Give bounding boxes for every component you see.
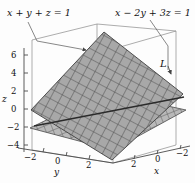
tick-y-0: −2 (24, 152, 37, 162)
tick-z-2: 2 (11, 86, 16, 96)
axis-label-z: z (2, 94, 7, 104)
equation-plane-2: x − 2y + 3z = 1 (115, 7, 191, 18)
axis-label-x: x (154, 166, 159, 176)
equation-plane-1: x + y + z = 1 (7, 7, 71, 18)
axis-label-y: y (54, 167, 59, 177)
tick-z-3: 0 (11, 104, 16, 114)
tick-x-1: 0 (155, 154, 160, 164)
figure-3d-planes: their line of intersection is (0, 0, 195, 183)
tick-z-0: 6 (11, 50, 16, 60)
leader-line-L (168, 66, 171, 74)
axis-ticks-z (24, 55, 28, 145)
tick-x-0: 2 (131, 159, 136, 169)
tick-z-1: 4 (11, 68, 16, 78)
tick-z-5: −4 (7, 140, 20, 150)
tick-x-2: −2 (176, 148, 189, 158)
tick-y-2: 2 (86, 160, 91, 170)
tick-z-4: −2 (7, 122, 20, 132)
plane-surface-1 (31, 32, 183, 160)
leader-line-plane1 (28, 22, 86, 50)
tick-y-1: 0 (55, 156, 60, 166)
label-intersection-L: L (160, 58, 167, 69)
